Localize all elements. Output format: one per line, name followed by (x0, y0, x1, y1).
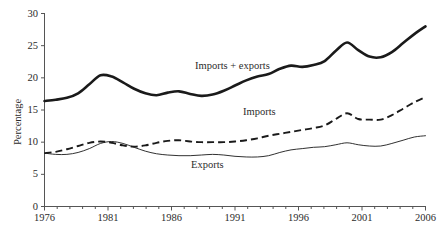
series-label-imports-plus-exports: Imports + exports (195, 61, 270, 72)
chart-plot-area (0, 0, 442, 245)
y-tick-label: 0 (14, 202, 38, 213)
y-axis-ticks (41, 14, 45, 207)
y-tick-label: 5 (14, 169, 38, 180)
series-line-exports (45, 136, 426, 157)
series-label-imports: Imports (243, 107, 276, 118)
x-tick-label: 2001 (338, 213, 386, 224)
y-tick-label: 25 (14, 41, 38, 52)
series-line-imports (45, 97, 426, 153)
y-tick-label: 10 (14, 137, 38, 148)
y-tick-label: 30 (14, 9, 38, 20)
axis-lines (44, 13, 426, 207)
x-tick-label: 1981 (84, 213, 132, 224)
x-tick-label: 1991 (211, 213, 259, 224)
chart-container: Percentage 051015202530 1976198119861991… (0, 0, 442, 245)
x-tick-label: 1996 (275, 213, 323, 224)
x-axis-major-ticks (45, 207, 426, 211)
y-tick-label: 20 (14, 73, 38, 84)
y-tick-label: 15 (14, 105, 38, 116)
x-tick-label: 2006 (402, 213, 442, 224)
x-tick-label: 1976 (21, 213, 69, 224)
x-tick-label: 1986 (148, 213, 196, 224)
series-label-exports: Exports (191, 160, 224, 171)
